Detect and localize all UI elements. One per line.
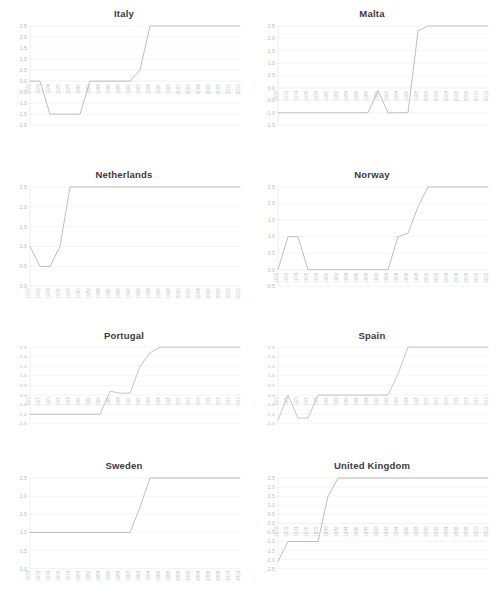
x-axis-tick-label: 1970: [274, 526, 279, 537]
x-axis-tick-label: 1986: [354, 397, 360, 405]
x-axis-tick-label: 2004: [196, 570, 201, 581]
x-axis-tick-label: 1972: [284, 526, 289, 537]
y-axis-tick-label: -1.5: [266, 422, 275, 426]
x-axis-tick-label: 1976: [304, 272, 309, 283]
plot-area: -1.5-1.0-0.50.00.51.01.52.02.51970197219…: [248, 22, 496, 159]
x-axis-tick-label: 2002: [434, 91, 439, 102]
x-axis-tick-label: 1982: [334, 397, 340, 405]
x-axis-tick-label: 1984: [344, 397, 350, 405]
x-axis-tick-label: 2004: [196, 288, 201, 299]
x-axis-tick-label: 1990: [126, 288, 131, 299]
x-axis-tick-label: 1994: [146, 288, 151, 299]
x-axis-tick-label: 1988: [116, 84, 121, 95]
x-axis-tick-label: 1998: [166, 397, 172, 405]
x-axis-tick-label: 1988: [364, 272, 369, 283]
x-axis-tick-label: 1980: [76, 288, 81, 299]
x-axis-tick-label: 1978: [66, 570, 71, 581]
x-axis-tick-label: 2002: [186, 84, 191, 95]
chart-panel-norway: Norway-0.50.00.51.01.52.02.5197019721974…: [248, 161, 496, 322]
y-axis-tick-label: 1.0: [20, 56, 27, 62]
x-axis-tick-label: 1976: [56, 570, 61, 581]
x-axis-tick-label: 1982: [86, 397, 92, 405]
x-axis-tick-label: 1976: [304, 91, 309, 102]
x-axis-tick-label: 2006: [454, 272, 459, 283]
y-axis-tick-label: 2.0: [20, 34, 27, 40]
y-axis-tick-label: 2.0: [20, 204, 27, 210]
x-axis-tick-label: 1978: [314, 526, 319, 537]
plot-area: -2.5-2.0-1.5-1.0-0.50.00.51.01.52.02.519…: [248, 474, 496, 603]
y-axis-tick-label: 2.0: [268, 484, 275, 490]
y-axis-tick-label: 1.0: [20, 374, 28, 378]
x-axis-tick-label: 2006: [454, 397, 460, 405]
x-axis-tick-label: 2010: [226, 84, 231, 95]
y-axis-tick-label: 2.0: [268, 35, 275, 41]
x-axis-tick-label: 1986: [354, 91, 359, 102]
x-axis-tick-label: 1982: [334, 91, 339, 102]
x-axis-tick-label: 1992: [136, 397, 142, 405]
x-axis-tick-label: 1998: [414, 272, 419, 283]
x-axis-tick-label: 1994: [394, 91, 399, 102]
chart-panel-malta: Malta-1.5-1.0-0.50.00.51.01.52.02.519701…: [248, 0, 496, 161]
x-axis-tick-label: 1972: [36, 84, 41, 95]
x-axis-tick-label: 1998: [414, 91, 419, 102]
chart-svg: 0.00.51.01.52.02.51970197219741976197819…: [0, 183, 248, 320]
chart-svg: 0.00.51.01.52.02.51970197219741976197819…: [0, 474, 248, 603]
x-axis-tick-label: 1986: [354, 526, 359, 537]
chart-panel-spain: Spain-1.5-1.0-0.50.00.51.01.52.02.519701…: [248, 322, 496, 452]
x-axis-tick-label: 1974: [294, 272, 299, 283]
y-axis-tick-label: 0.5: [268, 383, 276, 387]
x-axis-tick-label: 1982: [334, 526, 339, 537]
chart-title: Sweden: [0, 452, 248, 474]
x-axis-tick-label: 1994: [394, 272, 399, 283]
x-axis-tick-label: 2002: [434, 526, 439, 537]
y-axis-tick-label: -1.0: [266, 110, 275, 116]
y-axis-tick-label: 0.0: [268, 520, 275, 526]
x-axis-tick-label: 1994: [394, 526, 399, 537]
x-axis-tick-label: 1980: [324, 526, 329, 537]
x-axis-tick-label: 1980: [324, 272, 329, 283]
x-axis-tick-label: 1998: [414, 397, 420, 405]
y-axis-tick-label: 0.5: [268, 511, 275, 517]
x-axis-tick-label: 1970: [26, 570, 31, 581]
plot-area: 0.00.51.01.52.02.51970197219741976197819…: [0, 183, 248, 320]
x-axis-tick-label: 2008: [216, 288, 221, 299]
x-axis-tick-label: 1984: [344, 272, 349, 283]
x-axis-tick-label: 1990: [126, 397, 132, 405]
x-axis-tick-label: 2004: [444, 272, 449, 283]
y-axis-tick-label: 0.5: [20, 263, 27, 269]
y-axis-tick-label: 1.5: [20, 511, 27, 517]
chart-panel-portugal: Portugal-1.5-1.0-0.50.00.51.01.52.02.519…: [0, 322, 248, 452]
y-axis-tick-label: 1.5: [20, 364, 28, 368]
x-axis-tick-label: 1972: [284, 272, 289, 283]
chart-panel-italy: Italy-2.0-1.5-1.0-0.50.00.51.01.52.02.51…: [0, 0, 248, 161]
y-axis-tick-label: 0.5: [20, 547, 27, 553]
x-axis-tick-label: 1970: [274, 91, 279, 102]
x-axis-tick-label: 1974: [294, 91, 299, 102]
x-axis-tick-label: 2000: [424, 526, 429, 537]
x-axis-tick-label: 1984: [344, 526, 349, 537]
chart-panel-netherlands: Netherlands0.00.51.01.52.02.519701972197…: [0, 161, 248, 322]
y-axis-tick-label: 2.0: [268, 355, 276, 359]
x-axis-tick-label: 2000: [176, 570, 181, 581]
x-axis-tick-label: 1972: [36, 288, 41, 299]
x-axis-tick-label: 1970: [26, 288, 31, 299]
y-axis-tick-label: 2.5: [268, 345, 276, 349]
y-axis-tick-label: 2.5: [20, 23, 27, 29]
y-axis-tick-label: -2.0: [266, 557, 275, 563]
x-axis-tick-label: 1986: [106, 397, 112, 405]
x-axis-tick-label: 2012: [484, 91, 489, 102]
x-axis-tick-label: 1994: [394, 397, 400, 405]
x-axis-tick-label: 1994: [146, 397, 152, 405]
x-axis-tick-label: 1996: [156, 288, 161, 299]
x-axis-tick-label: 2008: [216, 570, 221, 581]
x-axis-tick-label: 2010: [474, 397, 480, 405]
x-axis-tick-label: 1988: [364, 397, 370, 405]
x-axis-tick-label: 2002: [186, 288, 191, 299]
x-axis-tick-label: 2012: [236, 288, 241, 299]
x-axis-tick-label: 1980: [324, 397, 330, 405]
x-axis-tick-label: 2006: [206, 288, 211, 299]
y-axis-tick-label: 0.0: [268, 85, 275, 91]
y-axis-tick-label: -1.5: [266, 122, 275, 128]
y-axis-tick-label: 1.5: [268, 364, 276, 368]
x-axis-tick-label: 1970: [274, 397, 280, 405]
